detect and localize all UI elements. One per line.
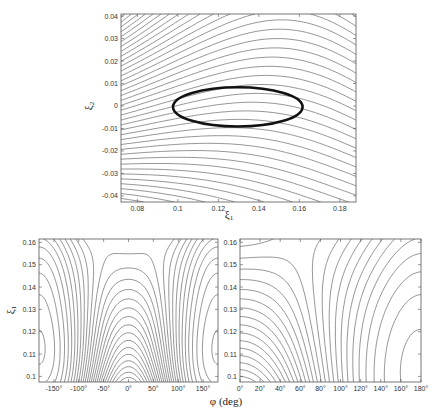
- x-tick-label: 120°: [353, 385, 368, 392]
- contour-line: [39, 258, 218, 382]
- x-tick-label: 50°: [148, 385, 159, 392]
- y-tick-label: 0.15: [22, 261, 36, 268]
- bottom-y-axis-label: ξ1: [4, 305, 18, 314]
- contour-line: [121, 194, 175, 203]
- x-tick-label: 150°: [196, 385, 211, 392]
- x-tick-label: 100°: [333, 385, 348, 392]
- contour-line: [60, 239, 198, 382]
- y-tick-label: 0.11: [23, 351, 36, 358]
- contour-line: [121, 198, 144, 202]
- y-tick-label: 0.01: [104, 80, 118, 87]
- x-tick-label: 0.08: [131, 205, 145, 212]
- contour-line: [121, 14, 153, 37]
- x-tick-label: 0.12: [212, 205, 226, 212]
- contour-line: [121, 143, 356, 176]
- contour-line: [110, 361, 147, 382]
- contour-line: [121, 169, 321, 202]
- x-tick-label: 180°: [414, 385, 429, 392]
- bottom-right-contour-plot: 0°20°40°60°80°100°120°140°160°180°0.160.…: [223, 239, 428, 392]
- contour-line: [101, 333, 156, 382]
- x-tick-label: 80°: [315, 385, 326, 392]
- contour-line: [91, 290, 166, 383]
- contour-line: [240, 363, 270, 382]
- contour-line: [121, 151, 356, 186]
- y-tick-label: 0.04: [104, 13, 118, 20]
- x-tick-label: 40°: [275, 385, 286, 392]
- contour-line: [54, 239, 204, 382]
- contour-line: [39, 330, 218, 365]
- contour-line: [329, 239, 351, 382]
- x-tick-label: -100°: [70, 385, 87, 392]
- contour-line: [240, 290, 310, 383]
- x-tick-label: -150°: [46, 385, 63, 392]
- feasible-region-ellipse: [173, 87, 303, 126]
- contour-line: [44, 239, 214, 382]
- x-tick-label: 60°: [295, 385, 306, 392]
- contour-line: [121, 14, 200, 61]
- contour-line: [121, 14, 125, 17]
- bottom-left-contour-plot: -150°-100°-50°0°50°100°150°0.160.150.140…: [22, 239, 218, 392]
- contour-line: [240, 348, 281, 382]
- contour-line: [240, 308, 302, 382]
- contour-line: [121, 57, 356, 100]
- contour-line: [359, 239, 415, 382]
- contour-line: [240, 341, 285, 382]
- contour-line: [95, 308, 162, 382]
- y-tick-label: 0.12: [22, 328, 36, 335]
- x-tick-label: 100°: [171, 385, 186, 392]
- figure: 0.080.10.120.140.160.180.040.030.020.010…: [0, 0, 436, 416]
- contour-line: [240, 333, 290, 382]
- y-tick-label: 0.14: [22, 284, 36, 291]
- y-tick-label: 0.13: [22, 306, 36, 313]
- top-x-axis-label: ξ1: [225, 208, 234, 222]
- y-tick-label: -0.01: [102, 125, 118, 132]
- x-tick-label: 0.18: [333, 205, 347, 212]
- top-contour-plot: 0.080.10.120.140.160.180.040.030.020.010…: [102, 13, 356, 212]
- contour-line: [121, 29, 356, 85]
- y-tick-label: 0.12: [223, 328, 237, 335]
- x-tick-label: 0°: [125, 385, 132, 392]
- contour-line: [121, 93, 356, 120]
- y-tick-label: -0.02: [102, 147, 118, 154]
- x-tick-label: 0.14: [252, 205, 266, 212]
- contour-line: [384, 295, 421, 382]
- x-tick-label: 160°: [394, 385, 409, 392]
- contour-line: [240, 239, 325, 382]
- bottom-x-axis-label: φ (deg): [210, 395, 243, 408]
- contour-line: [121, 111, 356, 139]
- contour-line: [76, 239, 181, 382]
- contour-line: [121, 14, 145, 32]
- contour-line: [121, 136, 356, 167]
- contour-line: [347, 239, 383, 382]
- y-tick-label: -0.04: [102, 192, 118, 199]
- contour-line: [121, 14, 356, 71]
- y-tick-label: 0.1: [227, 373, 237, 380]
- y-tick-label: 0.14: [223, 284, 237, 291]
- y-tick-label: 0.1: [26, 373, 36, 380]
- y-tick-label: 0.16: [22, 239, 36, 246]
- contour-line: [341, 239, 372, 382]
- plot-frame: [240, 239, 421, 382]
- x-tick-label: 0°: [237, 385, 244, 392]
- contour-line: [240, 376, 256, 382]
- contour-line: [121, 179, 264, 202]
- y-tick-label: 0: [114, 102, 118, 109]
- x-tick-label: -50°: [97, 385, 110, 392]
- contour-line: [240, 269, 317, 382]
- y-tick-label: 0.15: [223, 261, 237, 268]
- y-tick-label: 0.13: [223, 306, 237, 313]
- contour-line: [103, 340, 154, 382]
- contour-line: [85, 254, 172, 383]
- x-tick-label: 20°: [255, 385, 266, 392]
- x-tick-label: 0.1: [173, 205, 183, 212]
- contour-line: [83, 239, 174, 382]
- contour-line: [240, 356, 276, 382]
- y-tick-label: 0.02: [104, 58, 118, 65]
- contour-line: [107, 354, 149, 382]
- y-tick-label: 0.16: [223, 239, 237, 246]
- y-tick-label: 0.11: [224, 351, 237, 358]
- y-tick-label: -0.03: [102, 170, 118, 177]
- y-tick-label: 0.03: [104, 35, 118, 42]
- plot-frame: [121, 14, 356, 202]
- contour-line: [400, 330, 421, 383]
